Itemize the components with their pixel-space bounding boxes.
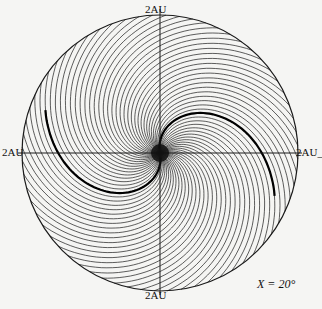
field-line xyxy=(50,61,160,189)
field-line xyxy=(124,43,252,153)
axis-label-bottom: 2AU xyxy=(145,289,166,301)
field-line-plot xyxy=(0,0,322,309)
field-line xyxy=(80,19,160,169)
field-line xyxy=(68,153,196,263)
field-line xyxy=(26,153,176,233)
angle-annotation: X = 20° xyxy=(257,277,295,292)
field-line xyxy=(78,153,199,268)
axis-label-top: 2AU xyxy=(145,3,166,15)
field-line xyxy=(144,73,294,153)
field-line xyxy=(120,38,242,153)
field-line xyxy=(160,137,240,287)
center-dot xyxy=(151,144,169,162)
field-line xyxy=(160,113,275,235)
axis-label-right: 2AU_ xyxy=(296,146,322,158)
field-line xyxy=(45,71,160,192)
field-line xyxy=(160,117,270,245)
axis-label-left: 2AU xyxy=(2,146,23,158)
spiral-field-diagram: 2AU 2AU 2AU 2AU_ X = 20° xyxy=(0,0,322,309)
